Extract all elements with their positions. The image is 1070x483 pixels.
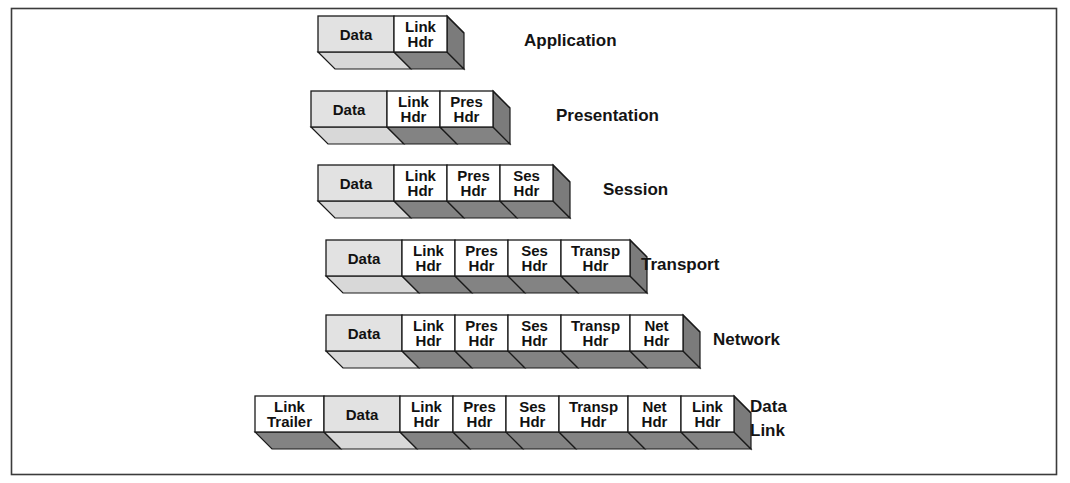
block-label-line: Link — [413, 242, 444, 259]
block-label-line: Pres — [463, 398, 496, 415]
layer-name-label: Application — [524, 31, 617, 50]
layer-name-line: Link — [750, 421, 785, 440]
block-label-line: Link — [692, 398, 723, 415]
layer-name-label: Network — [713, 330, 781, 349]
layer-name-line: Data — [750, 397, 787, 416]
encapsulation-row: DataLinkHdrPresHdrSesHdr — [318, 165, 570, 218]
block-label-line: Link — [405, 18, 436, 35]
block-label-line: Data — [348, 250, 381, 267]
layer-name-label: Transport — [641, 255, 720, 274]
block-label-line: Net — [644, 317, 668, 334]
block-label-line: Hdr — [522, 332, 548, 349]
block-label-line: Data — [333, 101, 366, 118]
layer-name-line: Network — [713, 330, 781, 349]
encapsulation-row: DataLinkHdrPresHdr — [311, 91, 510, 144]
block-label-line: Ses — [519, 398, 546, 415]
block-label-line: Hdr — [414, 413, 440, 430]
block-label-line: Transp — [571, 242, 620, 259]
block-label-line: Ses — [521, 317, 548, 334]
layer-name-line: Presentation — [556, 106, 659, 125]
block-label-line: Link — [398, 93, 429, 110]
block-label-line: Link — [405, 167, 436, 184]
encapsulation-row: DataLinkHdrPresHdrSesHdrTranspHdr — [326, 240, 647, 293]
layer-name-line: Application — [524, 31, 617, 50]
block-label-line: Data — [340, 175, 373, 192]
block-label-line: Hdr — [461, 182, 487, 199]
block-label-line: Net — [642, 398, 666, 415]
block-label-line: Hdr — [469, 332, 495, 349]
encapsulation-row: LinkTrailerDataLinkHdrPresHdrSesHdrTrans… — [255, 396, 751, 449]
block-label-line: Data — [346, 406, 379, 423]
block-label-line: Hdr — [416, 257, 442, 274]
block-label-line: Hdr — [695, 413, 721, 430]
block-label-line: Hdr — [469, 257, 495, 274]
block-label-line: Pres — [465, 242, 498, 259]
block-label-line: Hdr — [583, 332, 609, 349]
block-label-line: Hdr — [583, 257, 609, 274]
block-label-line: Hdr — [514, 182, 540, 199]
layer-name-label: Session — [603, 180, 668, 199]
block-label-line: Hdr — [467, 413, 493, 430]
block-label-line: Hdr — [642, 413, 668, 430]
block-label-line: Hdr — [520, 413, 546, 430]
encapsulation-svg-canvas: DataLinkHdrDataLinkHdrPresHdrDataLinkHdr… — [0, 0, 1070, 483]
layer-name-line: Transport — [641, 255, 720, 274]
block-label-line: Transp — [569, 398, 618, 415]
block-label-line: Ses — [521, 242, 548, 259]
block-label-line: Link — [413, 317, 444, 334]
block-label-line: Link — [411, 398, 442, 415]
block-label-line: Hdr — [416, 332, 442, 349]
block-label-line: Hdr — [408, 33, 434, 50]
block-label-line: Hdr — [644, 332, 670, 349]
block-label-line: Pres — [450, 93, 483, 110]
encapsulation-row: DataLinkHdrPresHdrSesHdrTranspHdrNetHdr — [326, 315, 700, 368]
layer-name-label: Presentation — [556, 106, 659, 125]
encapsulation-row: DataLinkHdr — [318, 16, 464, 69]
block-label-line: Trailer — [267, 413, 312, 430]
block-label-line: Pres — [465, 317, 498, 334]
layer-name-line: Session — [603, 180, 668, 199]
block-label-line: Hdr — [401, 108, 427, 125]
block-label-line: Ses — [513, 167, 540, 184]
block-label-line: Hdr — [522, 257, 548, 274]
block-label-line: Hdr — [408, 182, 434, 199]
block-label-line: Pres — [457, 167, 490, 184]
block-label-line: Link — [274, 398, 305, 415]
block-label-line: Hdr — [454, 108, 480, 125]
block-label-line: Hdr — [581, 413, 607, 430]
block-label-line: Data — [348, 325, 381, 342]
osi-encapsulation-diagram: DataLinkHdrDataLinkHdrPresHdrDataLinkHdr… — [0, 0, 1070, 483]
block-label-line: Data — [340, 26, 373, 43]
block-label-line: Transp — [571, 317, 620, 334]
